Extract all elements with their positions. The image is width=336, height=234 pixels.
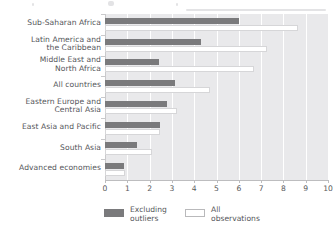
bar xyxy=(105,108,177,114)
category-label: Middle East andNorth Africa xyxy=(0,56,101,73)
y-axis-tick xyxy=(101,14,105,15)
x-axis-tick xyxy=(172,180,173,183)
x-axis-tick-label: 8 xyxy=(273,184,293,193)
bar xyxy=(105,46,267,52)
chart-container: Sub-Saharan AfricaLatin America andthe C… xyxy=(0,0,336,234)
x-axis-tick-label: 9 xyxy=(296,184,316,193)
category-label: Eastern Europe andCentral Asia xyxy=(0,98,101,115)
bar xyxy=(105,39,201,45)
top-crop-artifact xyxy=(0,0,336,10)
category-label: South Asia xyxy=(0,144,101,153)
y-axis-tick xyxy=(101,56,105,57)
gridline xyxy=(261,14,262,180)
x-axis-tick-label: 10 xyxy=(318,184,336,193)
gridline xyxy=(328,14,329,180)
category-label: Advanced economies xyxy=(0,164,101,173)
x-axis-tick-label: 3 xyxy=(162,184,182,193)
y-axis-tick xyxy=(101,97,105,98)
x-axis-tick xyxy=(283,180,284,183)
bar xyxy=(105,18,239,24)
x-axis-tick-label: 2 xyxy=(140,184,160,193)
bar xyxy=(105,87,210,93)
x-axis-tick xyxy=(127,180,128,183)
gridline xyxy=(239,14,240,180)
x-axis-tick xyxy=(105,180,106,183)
bar xyxy=(105,122,160,128)
y-axis-tick xyxy=(101,76,105,77)
bar xyxy=(105,80,175,86)
x-axis-tick xyxy=(150,180,151,183)
y-axis-tick xyxy=(101,118,105,119)
category-axis-labels: Sub-Saharan AfricaLatin America andthe C… xyxy=(0,14,101,180)
category-label: All countries xyxy=(0,81,101,90)
x-axis-tick xyxy=(328,180,329,183)
x-axis-tick-label: 6 xyxy=(229,184,249,193)
y-axis-tick xyxy=(101,159,105,160)
bar xyxy=(105,66,254,72)
bar xyxy=(105,142,137,148)
category-label: East Asia and Pacific xyxy=(0,123,101,132)
bar xyxy=(105,149,152,155)
x-axis-tick xyxy=(306,180,307,183)
x-axis-tick-label: 0 xyxy=(95,184,115,193)
category-label: Sub-Saharan Africa xyxy=(0,19,101,28)
bar xyxy=(105,170,125,176)
x-axis-tick xyxy=(239,180,240,183)
x-axis-tick-label: 5 xyxy=(207,184,227,193)
chart-legend: Excluding outliers All observations xyxy=(0,206,336,234)
legend-swatch-dark xyxy=(104,209,124,217)
bar xyxy=(105,25,298,31)
x-axis-tick xyxy=(261,180,262,183)
gridline xyxy=(217,14,218,180)
x-axis-tick-label: 1 xyxy=(117,184,137,193)
legend-swatch-light xyxy=(185,209,205,217)
legend-label-excluding-outliers: Excluding outliers xyxy=(130,205,167,223)
y-axis-tick xyxy=(101,139,105,140)
gridline xyxy=(283,14,284,180)
category-label: Latin America andthe Caribbean xyxy=(0,36,101,53)
bar xyxy=(105,129,160,135)
x-axis-tick xyxy=(194,180,195,183)
y-axis-tick xyxy=(101,35,105,36)
x-axis-tick-label: 7 xyxy=(251,184,271,193)
legend-label-all-observations: All observations xyxy=(211,205,260,223)
x-axis-tick xyxy=(217,180,218,183)
bar xyxy=(105,163,124,169)
bar xyxy=(105,59,159,65)
bar xyxy=(105,101,167,107)
gridline xyxy=(306,14,307,180)
x-axis-tick-label: 4 xyxy=(184,184,204,193)
